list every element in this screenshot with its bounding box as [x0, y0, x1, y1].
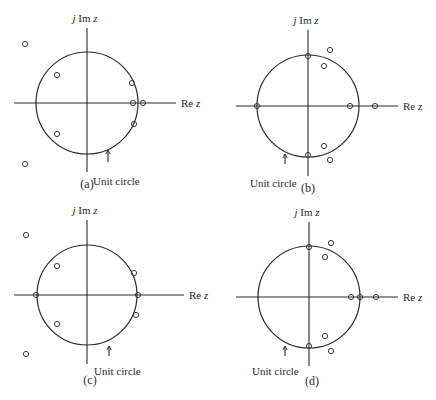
real-axis-label: Re z	[403, 291, 423, 303]
pole-zero-figure: j Im zRe zUnit circle(a)j Im zRe zUnit c…	[0, 0, 436, 400]
panel-d: j Im zRe zUnit circle(d)	[236, 206, 423, 388]
zero-marker	[22, 161, 27, 166]
zero-marker	[54, 72, 59, 77]
real-axis-label: Re z	[189, 289, 209, 301]
panel-caption: (b)	[301, 181, 315, 195]
zero-marker	[321, 143, 326, 148]
zero-marker	[23, 351, 28, 356]
zero-marker	[54, 263, 59, 268]
zero-marker	[322, 333, 327, 338]
zero-marker	[54, 131, 59, 136]
imag-axis-label: j Im z	[70, 12, 98, 24]
imag-axis-label: j Im z	[291, 14, 319, 26]
panel-c: j Im zRe zUnit circle(c)	[14, 204, 209, 387]
zero-marker	[133, 312, 138, 317]
zero-marker	[328, 240, 333, 245]
unit-circle-label: Unit circle	[250, 177, 297, 189]
panel-caption: (a)	[80, 177, 93, 191]
zero-marker	[327, 157, 332, 162]
zero-marker	[327, 47, 332, 52]
panel-caption: (c)	[83, 373, 96, 387]
imag-axis-label: j Im z	[70, 204, 98, 216]
zero-marker	[328, 348, 333, 353]
unit-circle-label: Unit circle	[93, 175, 140, 187]
real-axis-label: Re z	[181, 97, 201, 109]
panel-caption: (d)	[305, 374, 319, 388]
zero-marker	[322, 254, 327, 259]
panel-b: j Im zRe zUnit circle(b)	[236, 14, 423, 195]
unit-circle-label: Unit circle	[252, 365, 299, 377]
zero-marker	[22, 41, 27, 46]
zero-marker	[23, 232, 28, 237]
unit-circle-label: Unit circle	[94, 365, 141, 377]
imag-axis-label: j Im z	[292, 206, 320, 218]
panel-a: j Im zRe zUnit circle(a)	[14, 12, 201, 191]
real-axis-label: Re z	[403, 100, 423, 112]
zero-marker	[321, 63, 326, 68]
zero-marker	[54, 321, 59, 326]
